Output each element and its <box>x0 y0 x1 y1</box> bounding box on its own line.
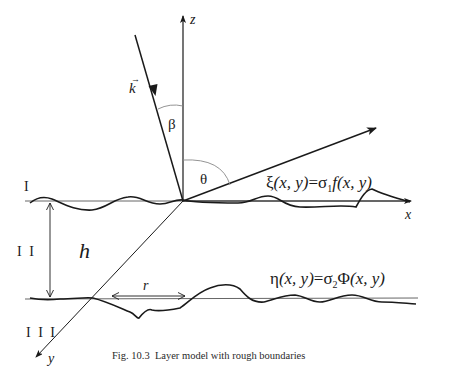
thickness-label: h <box>79 238 90 263</box>
beta-angle-arc <box>158 105 183 109</box>
x-axis-label: x <box>404 207 412 222</box>
theta-angle-label: θ <box>200 171 207 187</box>
eq1-lhs-args: (x, y) <box>274 173 309 192</box>
vector-arrow-accent: → <box>131 74 140 84</box>
upper-rough-boundary <box>30 189 410 210</box>
eq2-rhs-fn: Φ <box>338 269 350 288</box>
beta-angle-label: β <box>168 116 176 132</box>
eq2-lhs-args: (x, y) <box>279 269 314 288</box>
eq2-rhs-args: (x, y) <box>350 269 385 288</box>
incident-wave-vector <box>135 35 183 201</box>
lower-boundary-equation: η(x, y)=σ2Φ(x, y) <box>270 269 385 290</box>
eq1-equals: = <box>309 173 319 192</box>
z-axis-label: z <box>189 12 196 27</box>
eq2-lhs-fn: η <box>270 269 279 288</box>
eq1-sigma: σ <box>318 173 327 192</box>
layer-label-middle: I I <box>17 244 36 259</box>
incident-arrowhead-icon <box>149 84 158 96</box>
upper-boundary-equation: ξ(x, y)=σ1f(x, y) <box>266 173 372 194</box>
y-axis-label: y <box>46 351 55 366</box>
eq1-rhs-args: (x, y) <box>337 173 372 192</box>
layer-model-diagram: z x y k → β θ I I I I I I h r ξ(x, y)=σ1… <box>0 0 459 377</box>
correlation-length-label: r <box>143 278 149 293</box>
figure-caption: Fig. 10.3 Layer model with rough boundar… <box>112 350 305 361</box>
layer-label-top: I <box>24 179 31 194</box>
layer-label-bottom: I I I <box>26 325 57 340</box>
y-axis <box>36 201 183 357</box>
eq2-sigma: σ <box>323 269 332 288</box>
eq2-equals: = <box>314 269 324 288</box>
